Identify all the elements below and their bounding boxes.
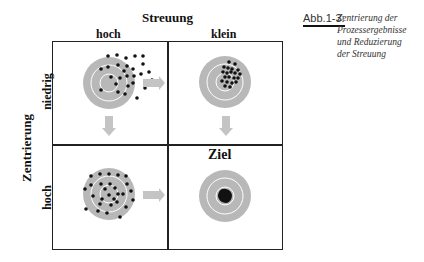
target-label: Ziel: [208, 147, 231, 163]
target-bottom-left: [83, 168, 135, 220]
arrow-right-icon: [143, 188, 165, 202]
target-top-right: [199, 56, 251, 108]
caption-line: und Reduzierung: [337, 36, 424, 48]
caption-line: der Streuung: [337, 48, 424, 60]
caption-line: Zentrierung der: [337, 12, 424, 24]
figure-caption: Zentrierung der Prozessergebnisse und Re…: [337, 12, 424, 60]
caption-line: Prozessergebnisse: [337, 24, 424, 36]
arrow-down-icon: [219, 116, 233, 136]
target-bottom-right: [199, 170, 251, 222]
arrow-down-icon: [102, 116, 116, 136]
